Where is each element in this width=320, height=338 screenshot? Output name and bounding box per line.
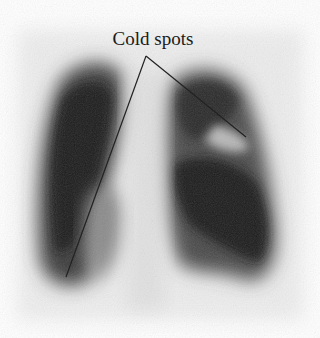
lung-scan-image — [0, 0, 320, 338]
annotation-label: Cold spots — [98, 28, 208, 50]
